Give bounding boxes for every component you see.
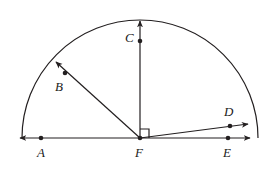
point-label-a: A — [37, 146, 45, 159]
point-dots-layer — [39, 39, 233, 141]
geometry-figure: ABCDEF — [0, 0, 265, 173]
ray-FB — [56, 62, 140, 138]
point-dot-d — [228, 124, 233, 129]
point-dot-a — [39, 136, 44, 141]
point-label-b: B — [55, 80, 63, 93]
point-dot-f — [138, 136, 143, 141]
rays-layer — [56, 21, 248, 138]
point-dot-e — [226, 136, 231, 141]
point-label-e: E — [223, 146, 231, 159]
point-label-c: C — [125, 31, 134, 44]
point-label-f: F — [135, 146, 143, 159]
point-dot-b — [63, 71, 68, 76]
point-dot-c — [138, 39, 143, 44]
point-label-d: D — [224, 105, 233, 118]
